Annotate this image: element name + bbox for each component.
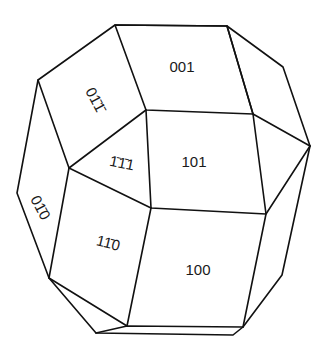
label-001: 001: [169, 58, 194, 75]
label-100: 100: [185, 261, 210, 278]
crystal-edges: [17, 25, 310, 335]
label-101: 101: [181, 153, 206, 170]
crystal-outline: [17, 25, 310, 335]
crystal-diagram: 001 101 100 1̄1̄1 11̄0 01̄1̄ 01̄0: [0, 0, 320, 348]
